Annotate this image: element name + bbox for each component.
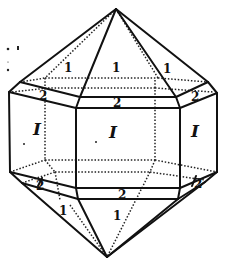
label-pyramid-bottom-left: 1 (59, 204, 67, 218)
crystal-diagram: 1 1 1 2 2 2 I I I 2 2 2 1 1 (0, 0, 228, 260)
label-bevel-top-left: 2 (39, 89, 47, 103)
label-prism-right: I (190, 121, 200, 141)
label-bevel-top-center: 2 (113, 96, 121, 110)
label-prism-left: I (32, 119, 42, 139)
label-bevel-bottom-left: 2 (36, 179, 44, 193)
label-pyramid-bottom-center: 1 (113, 209, 121, 223)
label-pyramid-top-left: 1 (64, 61, 72, 75)
label-bevel-top-right: 2 (191, 90, 199, 104)
label-prism-center: I (108, 122, 118, 142)
label-bevel-bottom-right: 2 (194, 177, 202, 191)
label-bevel-bottom-center: 2 (118, 188, 126, 202)
label-pyramid-top-center: 1 (112, 61, 120, 75)
label-pyramid-top-right: 1 (163, 62, 171, 76)
